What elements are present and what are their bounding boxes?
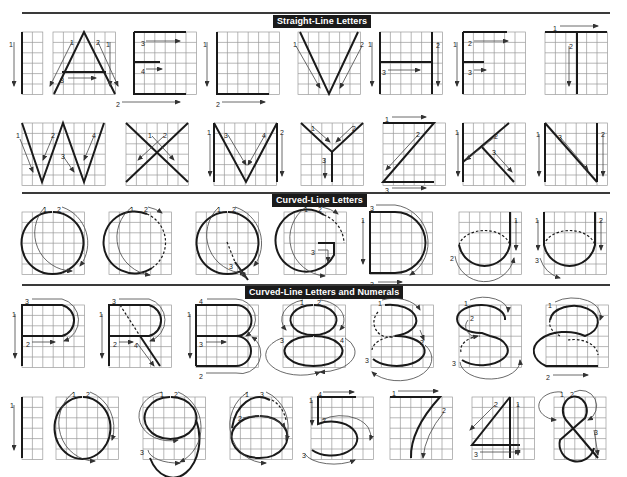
letter-stroke — [383, 123, 434, 182]
stroke-order-number: 3 — [229, 263, 233, 270]
stroke-order-number: 2 — [51, 132, 55, 139]
stroke-order-number: 2 — [322, 417, 326, 424]
stroke-order-number: 2 — [57, 206, 61, 213]
grid — [230, 397, 292, 459]
glyph-v2: 1234 — [207, 123, 284, 185]
glyph-u2: 123 — [535, 212, 606, 278]
stroke-order-number: 1 — [309, 397, 313, 404]
grid — [217, 32, 279, 94]
stroke-order-number: 4 — [262, 132, 266, 139]
stroke-order-number: 3 — [25, 298, 29, 305]
stroke-order-number: 1 — [536, 131, 540, 138]
glyph-r: 1234 — [99, 298, 171, 367]
stroke-order-number: 3 — [385, 187, 389, 194]
stroke-order-number: 1 — [72, 391, 76, 398]
stroke-order-number: 1 — [311, 125, 315, 132]
stroke-order-number: 2 — [163, 132, 167, 139]
stroke-order-number: 2 — [470, 315, 474, 322]
stroke-order-number: 1 — [43, 206, 47, 213]
stroke-order-arrow — [340, 46, 362, 88]
glyph-2: 12 — [534, 298, 609, 381]
stroke-order-arrow — [228, 135, 246, 165]
glyph-i: 1 — [9, 32, 43, 94]
stroke-order-number: 1 — [12, 311, 16, 318]
stroke-order-arrow — [560, 137, 588, 170]
grid — [554, 397, 606, 459]
construction-line — [227, 242, 235, 262]
glyph-x: 12 — [126, 123, 188, 185]
letter-stroke — [312, 397, 357, 456]
stroke-order-number: 3 — [140, 449, 144, 456]
stroke-order-number: 1 — [516, 401, 520, 408]
grid — [383, 123, 445, 185]
grid — [22, 32, 43, 94]
glyph-c: 12 — [104, 206, 172, 275]
stroke-order-number: 4 — [199, 298, 203, 305]
glyph-3: 132 — [365, 298, 433, 380]
stroke-order-number: 3 — [280, 337, 284, 344]
stroke-order-number: 1 — [187, 311, 191, 318]
stroke-order-number: 1 — [217, 206, 221, 213]
glyph-canvas: 1123123412121231231212341212341231231231… — [0, 0, 627, 477]
stroke-order-number: 4 — [318, 391, 322, 398]
stroke-order-arrow — [206, 337, 261, 374]
stroke-order-number: 1 — [203, 41, 207, 48]
stroke-order-number: 2 — [280, 129, 284, 136]
glyph-4: 123 — [470, 397, 534, 459]
stroke-order-number: 2 — [436, 42, 440, 49]
stroke-order-number: 2 — [599, 217, 603, 224]
glyph-5: 1423 — [302, 391, 373, 464]
glyph-q: 123 — [196, 206, 262, 280]
glyph-l: 12 — [203, 32, 279, 108]
letter-stroke — [545, 123, 597, 182]
stroke-order-number: 1 — [148, 132, 152, 139]
stroke-order-number: 1 — [392, 390, 396, 397]
glyph-s: 123 — [452, 297, 521, 379]
glyph-w: 1234 — [16, 123, 105, 185]
stroke-order-arrow — [322, 416, 371, 440]
stroke-order-arrow — [266, 338, 320, 375]
stroke-order-number: 2 — [468, 40, 472, 47]
glyph-ampersand: 123 — [539, 390, 606, 461]
stroke-order-arrow — [290, 207, 325, 276]
stroke-order-number: 1 — [70, 39, 74, 46]
glyph-b: 1342 — [187, 298, 261, 380]
stroke-order-number: 3 — [365, 357, 369, 364]
stroke-order-number: 1 — [378, 300, 382, 307]
stroke-order-arrow — [376, 205, 428, 275]
stroke-order-number: 1 — [464, 300, 468, 307]
stroke-order-number: 4 — [92, 132, 96, 139]
stroke-order-number: 2 — [317, 299, 321, 306]
stroke-order-number: 2 — [370, 281, 374, 288]
stroke-order-number: 1 — [300, 299, 304, 306]
stroke-order-number: 2 — [494, 133, 498, 140]
letter-stroke — [560, 397, 598, 462]
stroke-order-number: 1 — [514, 217, 518, 224]
glyph-0: 12 — [55, 391, 119, 461]
stroke-order-number: 4 — [340, 337, 344, 344]
letter-stroke — [544, 212, 595, 266]
construction-line — [461, 336, 480, 352]
stroke-order-number: 2 — [113, 341, 117, 348]
stroke-order-number: 3 — [112, 298, 116, 305]
letter-stroke — [385, 305, 416, 336]
glyph-v: 12 — [293, 32, 364, 94]
stroke-order-arrow — [318, 250, 328, 262]
stroke-order-number: 1 — [10, 402, 14, 409]
stroke-order-number: 3 — [594, 429, 598, 436]
stroke-order-number: 1 — [130, 206, 134, 213]
stroke-order-number: 1 — [560, 391, 564, 398]
letter-stroke — [481, 146, 514, 182]
stroke-order-number: 1 — [106, 41, 110, 48]
stroke-order-number: 1 — [245, 391, 249, 398]
grid — [109, 212, 171, 274]
stroke-order-number: 4 — [141, 68, 145, 75]
lettering-diagram: Straight-Line Letters Curved-Line Letter… — [0, 0, 627, 477]
stroke-order-arrow — [466, 320, 478, 336]
stroke-order-number: 2 — [216, 101, 220, 108]
stroke-order-number: 2 — [238, 415, 242, 422]
stroke-order-number: 2 — [442, 407, 446, 414]
stroke-order-number: 2 — [601, 131, 605, 138]
grid — [22, 397, 43, 459]
stroke-order-number: 1 — [304, 206, 308, 213]
